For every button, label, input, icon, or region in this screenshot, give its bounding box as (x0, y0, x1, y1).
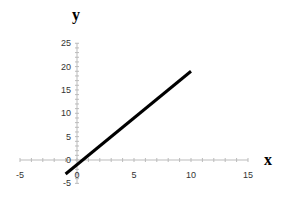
y-tick-label: 25 (61, 38, 71, 48)
y-tick-label: 15 (61, 85, 71, 95)
y-tick-label: -5 (63, 178, 71, 188)
x-tick-label: 0 (74, 170, 79, 180)
line-chart: -5051015 -50510152025 x y (0, 0, 287, 198)
series-line (66, 71, 191, 174)
x-axis-title: x (264, 151, 272, 168)
x-tick-label: -5 (16, 170, 24, 180)
y-tick-label: 5 (66, 132, 71, 142)
y-tick-label: 20 (61, 62, 71, 72)
y-tick-label: 0 (66, 155, 71, 165)
y-axis-title: y (72, 6, 80, 24)
x-tick-label: 15 (243, 170, 253, 180)
x-tick-label: 5 (131, 170, 136, 180)
data-series (66, 71, 191, 174)
y-tick-labels: -50510152025 (61, 38, 71, 188)
y-tick-label: 10 (61, 108, 71, 118)
x-tick-label: 10 (186, 170, 196, 180)
x-tick-labels: -5051015 (16, 170, 253, 180)
x-axis (20, 158, 248, 162)
